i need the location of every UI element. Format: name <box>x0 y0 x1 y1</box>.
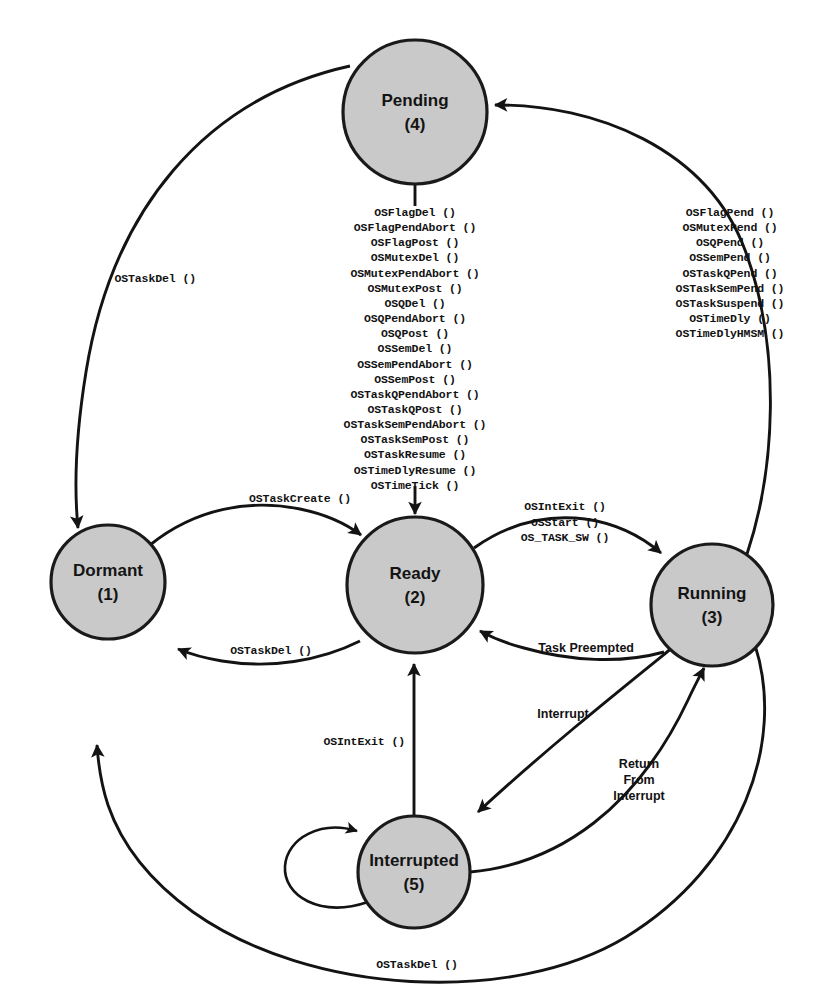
edge-path-interrupted-self <box>285 828 368 908</box>
state-node-dormant[interactable]: Dormant(1) <box>51 525 165 639</box>
edge-ready-to-dormant: OSTaskDel () <box>178 641 360 664</box>
state-index-running: (3) <box>702 608 723 627</box>
pending-to-ready-call-2: OSFlagPost () <box>371 236 459 249</box>
pending-to-ready-call-12: OSTaskQPendAbort () <box>350 388 479 401</box>
edge-label-pending-to-dormant: OSTaskDel () <box>114 272 196 285</box>
running-to-pending-call-1: OSMutexPend () <box>682 221 777 234</box>
state-circle-pending[interactable] <box>343 40 487 184</box>
edge-path-dormant-ready <box>150 505 361 545</box>
edge-label-interrupted-to-running-line1: Return <box>619 757 659 771</box>
running-to-pending-call-8: OSTimeDlyHMSM () <box>676 327 785 340</box>
running-to-pending-call-5: OSTaskSemPend () <box>676 282 785 295</box>
edge-interrupted-to-ready: OSIntExit () <box>323 664 414 816</box>
edge-path-interrupted-running <box>470 668 704 872</box>
state-node-ready[interactable]: Ready(2) <box>347 517 483 653</box>
pending-to-ready-call-6: OSQDel () <box>384 297 445 310</box>
ready-to-running-call-list: OSIntExit ()OSStart ()OS_TASK_SW () <box>521 500 609 544</box>
edge-running-to-ready: Task Preempted <box>480 631 664 660</box>
state-label-interrupted: Interrupted <box>369 851 459 870</box>
pending-to-ready-call-3: OSMutexDel () <box>371 251 459 264</box>
running-to-pending-call-0: OSFlagPend () <box>686 206 774 219</box>
edge-path-pending-dormant <box>76 66 350 528</box>
edge-interrupted-self-loop <box>285 828 368 908</box>
edge-interrupted-to-running: Return From Interrupt <box>470 668 704 872</box>
pending-to-ready-call-14: OSTaskSemPendAbort () <box>344 418 487 431</box>
edge-label-running-to-ready: Task Preempted <box>538 641 634 655</box>
ready-to-running-call-1: OSStart () <box>531 516 599 529</box>
pending-to-ready-call-13: OSTaskQPost () <box>367 403 462 416</box>
edge-label-interrupted-to-running-line2: From <box>623 773 654 787</box>
edge-label-running-to-interrupted: Interrupt <box>537 707 589 721</box>
pending-to-ready-call-5: OSMutexPost () <box>367 282 462 295</box>
pending-to-ready-call-9: OSSemDel () <box>378 342 453 355</box>
state-node-pending[interactable]: Pending(4) <box>343 40 487 184</box>
state-label-ready: Ready <box>389 564 441 583</box>
running-to-pending-call-7: OSTimeDly () <box>689 312 771 325</box>
running-to-pending-call-3: OSSemPend () <box>689 251 771 264</box>
pending-to-ready-call-4: OSMutexPendAbort () <box>350 267 479 280</box>
edge-path-running-interrupted <box>478 648 672 812</box>
pending-to-ready-call-8: OSQPost () <box>381 327 449 340</box>
ready-to-running-call-2: OS_TASK_SW () <box>521 531 609 544</box>
pending-to-ready-call-1: OSFlagPendAbort () <box>354 221 476 234</box>
pending-to-ready-call-11: OSSemPost () <box>374 373 456 386</box>
edge-label-interrupted-to-running-line3: Interrupt <box>613 789 665 803</box>
edge-pending-to-dormant: OSTaskDel () <box>76 66 350 528</box>
pending-to-ready-call-17: OSTimeDlyResume () <box>354 464 476 477</box>
state-index-pending: (4) <box>405 115 426 134</box>
pending-to-ready-call-15: OSTaskSemPost () <box>361 433 470 446</box>
edge-dormant-to-ready: OSTaskCreate () <box>150 492 361 545</box>
pending-to-ready-call-0: OSFlagDel () <box>374 206 456 219</box>
pending-to-ready-call-16: OSTaskResume () <box>364 448 466 461</box>
pending-to-ready-call-18: OSTimeTick () <box>371 479 459 492</box>
state-circle-ready[interactable] <box>347 517 483 653</box>
running-to-pending-call-list: OSFlagPend ()OSMutexPend ()OSQPend ()OSS… <box>676 206 785 340</box>
running-to-pending-call-6: OSTaskSuspend () <box>676 297 785 310</box>
state-index-ready: (2) <box>405 588 426 607</box>
state-label-pending: Pending <box>381 91 448 110</box>
state-diagram-canvas: OSTaskDel () OSTaskCreate () OSTaskDel (… <box>0 0 822 1001</box>
running-to-pending-call-4: OSTaskQPend () <box>682 267 777 280</box>
running-to-pending-call-2: OSQPend () <box>696 236 764 249</box>
edge-label-interrupted-to-ready: OSIntExit () <box>323 735 405 748</box>
state-circle-dormant[interactable] <box>51 525 165 639</box>
state-node-interrupted[interactable]: Interrupted(5) <box>358 816 470 928</box>
ready-to-running-call-0: OSIntExit () <box>524 500 606 513</box>
state-index-dormant: (1) <box>98 585 119 604</box>
state-node-running[interactable]: Running(3) <box>651 544 773 666</box>
pending-to-ready-call-10: OSSemPendAbort () <box>357 358 473 371</box>
pending-to-ready-call-list: OSFlagDel ()OSFlagPendAbort ()OSFlagPost… <box>344 206 487 492</box>
state-circle-running[interactable] <box>651 544 773 666</box>
pending-to-ready-call-7: OSQPendAbort () <box>364 312 466 325</box>
edge-path-running-dormant <box>97 645 765 982</box>
edge-running-to-dormant: OSTaskDel () <box>97 645 765 982</box>
state-index-interrupted: (5) <box>404 875 425 894</box>
edge-label-running-to-dormant: OSTaskDel () <box>376 958 458 971</box>
state-label-running: Running <box>678 584 747 603</box>
edge-label-ready-to-dormant: OSTaskDel () <box>230 644 312 657</box>
state-circle-interrupted[interactable] <box>358 816 470 928</box>
state-label-dormant: Dormant <box>73 561 143 580</box>
edge-running-to-interrupted: Interrupt <box>478 648 672 812</box>
edge-label-dormant-to-ready: OSTaskCreate () <box>249 492 351 505</box>
task-state-diagram: OSTaskDel () OSTaskCreate () OSTaskDel (… <box>0 0 822 1001</box>
